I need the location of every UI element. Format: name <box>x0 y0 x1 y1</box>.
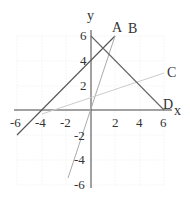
svg-text:A: A <box>112 20 123 35</box>
svg-text:-6: -6 <box>10 115 21 130</box>
svg-text:6: 6 <box>80 28 87 43</box>
svg-text:6: 6 <box>160 115 167 130</box>
svg-text:B: B <box>128 21 137 36</box>
svg-text:-4: -4 <box>74 152 85 167</box>
svg-text:x: x <box>174 103 181 118</box>
svg-text:D: D <box>163 97 173 112</box>
series-labels: A B C D <box>112 20 176 112</box>
svg-text:-2: -2 <box>74 128 85 143</box>
line-D <box>91 36 164 110</box>
svg-text:y: y <box>87 8 94 23</box>
svg-text:2: 2 <box>80 78 87 93</box>
axes <box>14 30 172 188</box>
chart-svg: -6 -4 -2 2 4 6 6 4 2 -2 -4 -6 y x A B C … <box>0 0 190 197</box>
line-C <box>42 73 164 114</box>
svg-text:-2: -2 <box>60 115 71 130</box>
svg-text:2: 2 <box>112 115 119 130</box>
svg-text:4: 4 <box>80 53 87 68</box>
svg-text:-6: -6 <box>74 177 85 192</box>
svg-text:4: 4 <box>136 115 143 130</box>
svg-text:C: C <box>167 65 176 80</box>
line-chart: -6 -4 -2 2 4 6 6 4 2 -2 -4 -6 y x A B C … <box>0 0 190 197</box>
svg-text:-4: -4 <box>35 115 46 130</box>
